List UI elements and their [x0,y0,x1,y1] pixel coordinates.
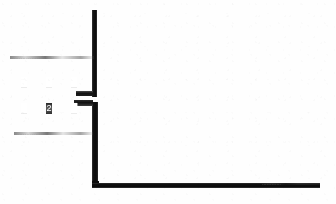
glyph-mark: █ [46,77,52,88]
edge-note-right: ………… [262,181,324,186]
glyph-mark: █ [21,103,27,114]
paper-grain-overlay [0,0,336,204]
glyph-mark: 2 [46,103,52,114]
glyph-mark: █ [71,103,77,114]
glyph-row-upper: █ █ █ [21,77,77,88]
glyph-row-lower: █ 2 █ [21,103,77,114]
glyph-mark: █ [21,77,27,88]
floor-plan-canvas: …………………… ………………… ………… █ █ █ █ 2 █ [0,0,336,204]
dimension-line-bottom: ………………… [14,130,94,136]
door-jamb-upper [76,91,93,96]
vertical-wall-lower [92,102,98,188]
dimension-line-top: …………………… [10,54,94,60]
glyph-mark: █ [71,77,77,88]
